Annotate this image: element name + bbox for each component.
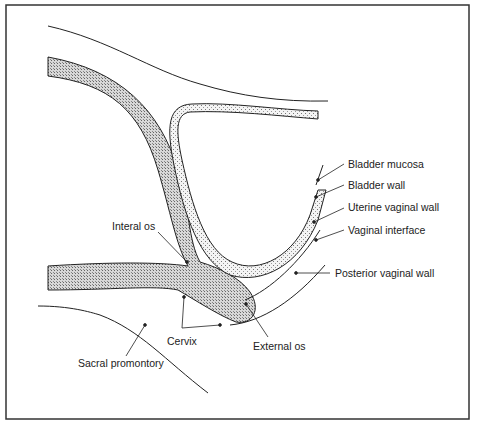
uterus-body xyxy=(48,57,255,322)
label-bladder-mucosa: Bladder mucosa xyxy=(348,158,424,170)
label-vaginal-interface: Vaginal interface xyxy=(348,224,426,236)
label-sacral-promontory: Sacral promontory xyxy=(78,357,165,369)
label-bladder-wall: Bladder wall xyxy=(348,179,405,191)
label-external-os: External os xyxy=(253,340,306,352)
abdominal-wall-line xyxy=(48,26,328,101)
label-uterine-vaginal-wall: Uterine vaginal wall xyxy=(348,201,439,213)
label-cervix: Cervix xyxy=(167,335,198,347)
label-internal-os: Interal os xyxy=(112,220,155,232)
anatomy-diagram: Bladder mucosa Bladder wall Uterine vagi… xyxy=(0,0,479,427)
bladder-mucosa-tick xyxy=(316,165,323,185)
label-posterior-vaginal-wall: Posterior vaginal wall xyxy=(335,267,434,279)
